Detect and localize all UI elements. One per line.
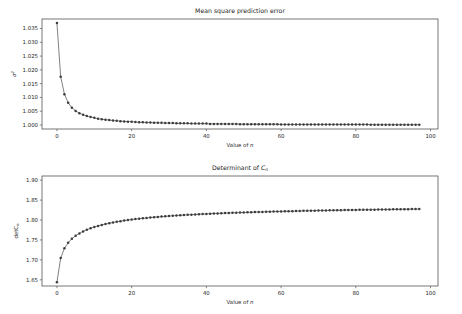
data-point-marker — [317, 209, 320, 212]
data-point-marker — [138, 121, 141, 124]
data-point-marker — [198, 122, 201, 125]
data-point-marker — [205, 122, 208, 125]
x-tick-label: 100 — [425, 133, 436, 139]
data-point-marker — [97, 117, 100, 120]
data-point-marker — [74, 110, 77, 113]
chart-panel-mean-square-prediction-error: Mean square prediction error1.0001.0051.… — [0, 0, 462, 157]
data-point-marker — [310, 209, 313, 212]
data-point-marker — [78, 232, 81, 235]
y-tick-label: 1.90 — [26, 177, 39, 183]
data-point-marker — [414, 208, 417, 211]
y-tick-label: 1.85 — [26, 197, 38, 203]
data-point-marker — [381, 123, 384, 126]
data-point-marker — [269, 123, 272, 126]
data-point-marker — [355, 123, 358, 126]
data-point-marker — [160, 215, 163, 218]
data-point-marker — [164, 215, 167, 218]
data-point-marker — [340, 123, 343, 126]
data-point-marker — [134, 121, 137, 124]
data-point-marker — [127, 120, 130, 123]
data-point-marker — [123, 120, 126, 123]
data-point-marker — [183, 214, 186, 217]
data-point-marker — [220, 212, 223, 215]
series-line — [57, 23, 419, 125]
data-point-marker — [362, 123, 365, 126]
data-point-marker — [321, 209, 324, 212]
data-point-marker — [347, 209, 350, 212]
data-point-marker — [86, 228, 89, 231]
data-point-marker — [153, 122, 156, 125]
data-point-marker — [261, 123, 264, 126]
data-point-marker — [295, 210, 298, 213]
x-tick-label: 100 — [425, 290, 436, 296]
data-point-marker — [228, 212, 231, 215]
data-point-marker — [355, 209, 358, 212]
data-point-marker — [261, 211, 264, 214]
data-point-marker — [381, 208, 384, 211]
data-point-marker — [418, 123, 421, 126]
data-point-marker — [272, 210, 275, 213]
data-point-marker — [403, 208, 406, 211]
y-tick-label: 1.020 — [23, 67, 39, 73]
series-markers — [56, 22, 421, 126]
x-axis-label: Value of n — [227, 142, 254, 148]
y-axis-label: σ2 — [10, 71, 17, 77]
data-point-marker — [201, 213, 204, 216]
data-point-marker — [370, 123, 373, 126]
data-point-marker — [276, 210, 279, 213]
data-point-marker — [157, 216, 160, 219]
data-point-marker — [108, 222, 111, 225]
data-point-marker — [93, 117, 96, 120]
y-tick-label: 1.80 — [26, 217, 39, 223]
data-point-marker — [351, 209, 354, 212]
data-point-marker — [86, 115, 89, 118]
data-point-marker — [272, 123, 275, 126]
data-point-marker — [216, 123, 219, 126]
data-point-marker — [399, 208, 402, 211]
data-point-marker — [246, 211, 249, 214]
y-axis-label: detCn — [13, 223, 20, 239]
data-point-marker — [250, 211, 253, 214]
data-point-marker — [246, 123, 249, 126]
y-tick-label: 1.025 — [23, 53, 38, 59]
data-point-marker — [149, 121, 152, 124]
data-point-marker — [172, 122, 175, 125]
data-point-marker — [115, 221, 118, 224]
data-point-marker — [93, 226, 96, 229]
x-tick-label: 40 — [203, 133, 210, 139]
data-point-marker — [392, 208, 395, 211]
data-point-marker — [179, 122, 182, 125]
data-point-marker — [224, 123, 227, 126]
data-point-marker — [138, 217, 141, 220]
data-point-marker — [265, 211, 268, 214]
data-point-marker — [362, 209, 365, 212]
data-point-marker — [396, 123, 399, 126]
y-tick-label: 1.75 — [26, 237, 38, 243]
data-point-marker — [306, 123, 309, 126]
data-point-marker — [287, 123, 290, 126]
data-point-marker — [403, 123, 406, 126]
data-point-marker — [396, 208, 399, 211]
data-point-marker — [164, 122, 167, 125]
data-point-marker — [82, 114, 85, 117]
x-tick-label: 40 — [203, 290, 210, 296]
data-point-marker — [127, 219, 130, 222]
data-point-marker — [418, 208, 421, 211]
data-point-marker — [254, 123, 257, 126]
data-point-marker — [172, 215, 175, 218]
data-point-marker — [411, 208, 414, 211]
data-point-marker — [411, 123, 414, 126]
data-point-marker — [175, 214, 178, 217]
data-point-marker — [101, 118, 104, 121]
data-point-marker — [82, 230, 85, 233]
data-point-marker — [190, 213, 193, 216]
data-point-marker — [190, 122, 193, 125]
x-tick-label: 20 — [128, 290, 135, 296]
y-tick-label: 1.010 — [23, 94, 39, 100]
data-point-marker — [366, 208, 369, 211]
x-tick-label: 80 — [352, 290, 359, 296]
data-point-marker — [59, 257, 62, 260]
data-point-marker — [343, 209, 346, 212]
figure-canvas: Mean square prediction error1.0001.0051.… — [0, 0, 462, 314]
data-point-marker — [340, 209, 343, 212]
